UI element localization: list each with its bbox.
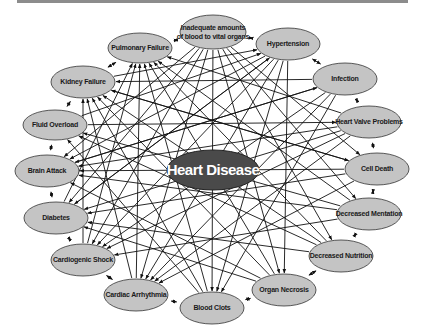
node-kidney-failure: Kidney Failure [51,66,115,98]
heart-disease-label: Heart Disease [167,161,260,178]
node-hypertension: Hypertension [256,28,320,60]
node-diabetes: Diabetes [24,202,88,234]
inadequate-label-line1: Inadequate amounts [181,24,246,32]
connection-arrow [97,59,273,245]
ring-double-arrow [171,301,177,302]
ring-double-arrow [106,276,112,280]
blood-clots-label: Blood Clots [193,304,230,311]
ring-double-arrow [373,143,374,148]
pulmonary-failure-label: Pulmonary Failure [111,44,169,52]
hypertension-label: Hypertension [267,40,309,48]
center-node: Heart Disease [167,150,260,190]
node-cardiac-arrhythmia: Cardiac Arrhythmia [104,279,168,311]
heart-disease-diagram: Inadequate amountsof blood to vital orga… [0,0,422,336]
node-brain-attack: Brain Attack [15,155,79,187]
diabetes-label: Diabetes [42,214,70,221]
organ-necrosis-label: Organ Necrosis [259,286,309,294]
ring-double-arrow [309,271,316,275]
ring-double-arrow [108,62,116,67]
node-heart-valve: Heart Valve Problems [335,106,403,138]
ring-double-arrow [354,233,356,236]
kidney-failure-label: Kidney Failure [60,78,106,86]
ring-double-arrow [312,59,320,64]
brain-attack-label: Brain Attack [28,167,67,174]
connection-arrow [116,79,312,81]
ring-double-arrow [68,237,70,240]
ring-double-arrow [174,40,178,41]
node-decreased-nutrition: Decreased Nutrition [309,240,373,272]
ring-double-arrow [245,298,250,299]
node-blood-clots: Blood Clots [180,292,244,324]
node-inadequate: Inadequate amountsof blood to vital orga… [177,15,250,49]
decreased-mentation-label: Decreased Mentation [336,210,403,217]
heart-valve-label: Heart Valve Problems [335,118,403,125]
ring-double-arrow [51,145,52,150]
node-cardiogenic-shock: Cardiogenic Shock [51,244,115,276]
inadequate-label-line2: of blood to vital organs [177,33,250,41]
node-pulmonary-failure: Pulmonary Failure [108,33,172,63]
cardiac-arrhythmia-label: Cardiac Arrhythmia [105,291,166,299]
ring-double-arrow [356,99,358,102]
node-decreased-mentation: Decreased Mentation [336,198,403,230]
node-organ-necrosis: Organ Necrosis [252,274,316,306]
connection-arrow [64,47,195,156]
connection-arrow [114,219,337,255]
decreased-nutrition-label: Decreased Nutrition [310,252,373,259]
cell-death-label: Cell Death [361,165,393,172]
ring-double-arrow [67,101,70,106]
connection-arrow [154,62,326,240]
ring-double-arrow [51,192,52,197]
fluid-overload-label: Fluid Overload [32,121,78,128]
cardiogenic-shock-label: Cardiogenic Shock [53,256,113,264]
ring-double-arrow [249,38,252,39]
ring-double-arrow [373,190,374,193]
node-cell-death: Cell Death [345,153,409,185]
node-fluid-overload: Fluid Overload [23,110,87,140]
infection-label: Infection [331,75,358,82]
node-infection: Infection [313,63,377,95]
